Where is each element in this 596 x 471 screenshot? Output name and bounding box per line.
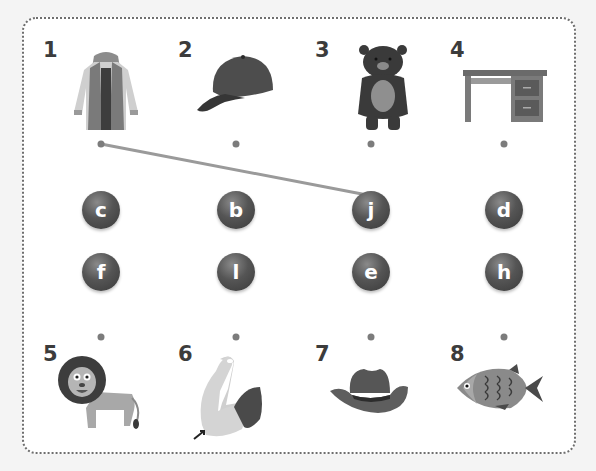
dot-item-1[interactable] — [98, 141, 105, 148]
letter-ball-d[interactable]: d — [485, 191, 523, 229]
fish-icon — [455, 364, 545, 414]
letter-ball-j[interactable]: j — [352, 191, 390, 229]
letter-ball-e[interactable]: e — [352, 253, 390, 291]
dot-item-3[interactable] — [368, 141, 375, 148]
item-number-4: 4 — [450, 38, 465, 62]
item-number-8: 8 — [450, 342, 465, 366]
baseball-cap-icon — [195, 52, 275, 118]
item-number-3: 3 — [315, 38, 330, 62]
item-number-2: 2 — [178, 38, 193, 62]
elbow-icon — [190, 355, 270, 443]
letter-ball-h[interactable]: h — [485, 253, 523, 291]
letter-ball-f[interactable]: f — [82, 253, 120, 291]
lion-icon — [56, 352, 142, 434]
item-number-1: 1 — [43, 38, 58, 62]
dot-item-5[interactable] — [98, 334, 105, 341]
letter-ball-b[interactable]: b — [217, 191, 255, 229]
dot-item-7[interactable] — [368, 334, 375, 341]
letter-ball-l[interactable]: l — [217, 253, 255, 291]
desk-icon — [463, 68, 547, 124]
dot-item-2[interactable] — [233, 141, 240, 148]
dot-item-6[interactable] — [233, 334, 240, 341]
letter-ball-c[interactable]: c — [82, 191, 120, 229]
dot-item-8[interactable] — [501, 334, 508, 341]
cowboy-hat-icon — [328, 365, 410, 415]
jacket-icon — [70, 48, 142, 132]
item-number-7: 7 — [315, 342, 330, 366]
dot-item-4[interactable] — [501, 141, 508, 148]
bear-icon — [354, 44, 412, 132]
